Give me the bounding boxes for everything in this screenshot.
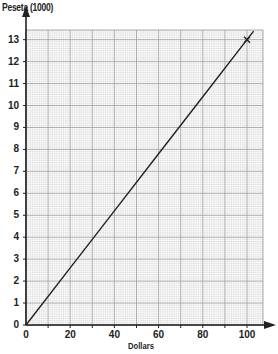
x-tick-label: 20 — [55, 330, 85, 340]
y-tick-label: 2 — [3, 276, 19, 286]
x-tick-label: 60 — [144, 330, 174, 340]
y-tick-label: 7 — [3, 166, 19, 176]
x-axis-arrow-icon — [264, 321, 276, 329]
y-tick-label: 4 — [3, 232, 19, 242]
y-tick-label: 3 — [3, 254, 19, 264]
chart-canvas — [0, 0, 278, 354]
y-tick-label: 5 — [3, 210, 19, 220]
x-tick-label: 100 — [232, 330, 262, 340]
x-tick-label: 0 — [11, 330, 41, 340]
y-tick-label: 0 — [3, 320, 19, 330]
y-tick-label: 9 — [3, 122, 19, 132]
x-tick-label: 40 — [99, 330, 129, 340]
y-tick-label: 6 — [3, 188, 19, 198]
x-tick-label: 80 — [188, 330, 218, 340]
y-tick-label: 1 — [3, 298, 19, 308]
y-tick-label: 13 — [3, 35, 19, 45]
y-tick-label: 10 — [3, 101, 19, 111]
y-axis-title: Peseta (1000) — [2, 2, 53, 13]
x-axis-title: Dollars — [128, 341, 154, 351]
y-tick-label: 12 — [3, 57, 19, 67]
y-tick-label: 8 — [3, 144, 19, 154]
y-tick-label: 11 — [3, 79, 19, 89]
